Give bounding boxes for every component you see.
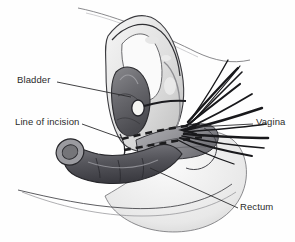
bone-texture-speck-1 bbox=[145, 36, 159, 44]
label-line-of-incision: Line of incision bbox=[15, 117, 79, 127]
bone-texture-speck-2 bbox=[161, 55, 171, 61]
label-rectum: Rectum bbox=[240, 202, 273, 212]
balloon-oval bbox=[132, 100, 144, 116]
retractor-shaft-11 bbox=[194, 66, 240, 120]
label-bladder: Bladder bbox=[17, 75, 50, 85]
bladder-shape bbox=[112, 67, 150, 136]
anatomical-figure: Bladder Line of incision Vagina Rectum bbox=[0, 0, 295, 242]
bone-texture-speck-3 bbox=[164, 77, 176, 95]
label-vagina: Vagina bbox=[256, 117, 285, 127]
retractor-shaft-10 bbox=[192, 60, 228, 118]
